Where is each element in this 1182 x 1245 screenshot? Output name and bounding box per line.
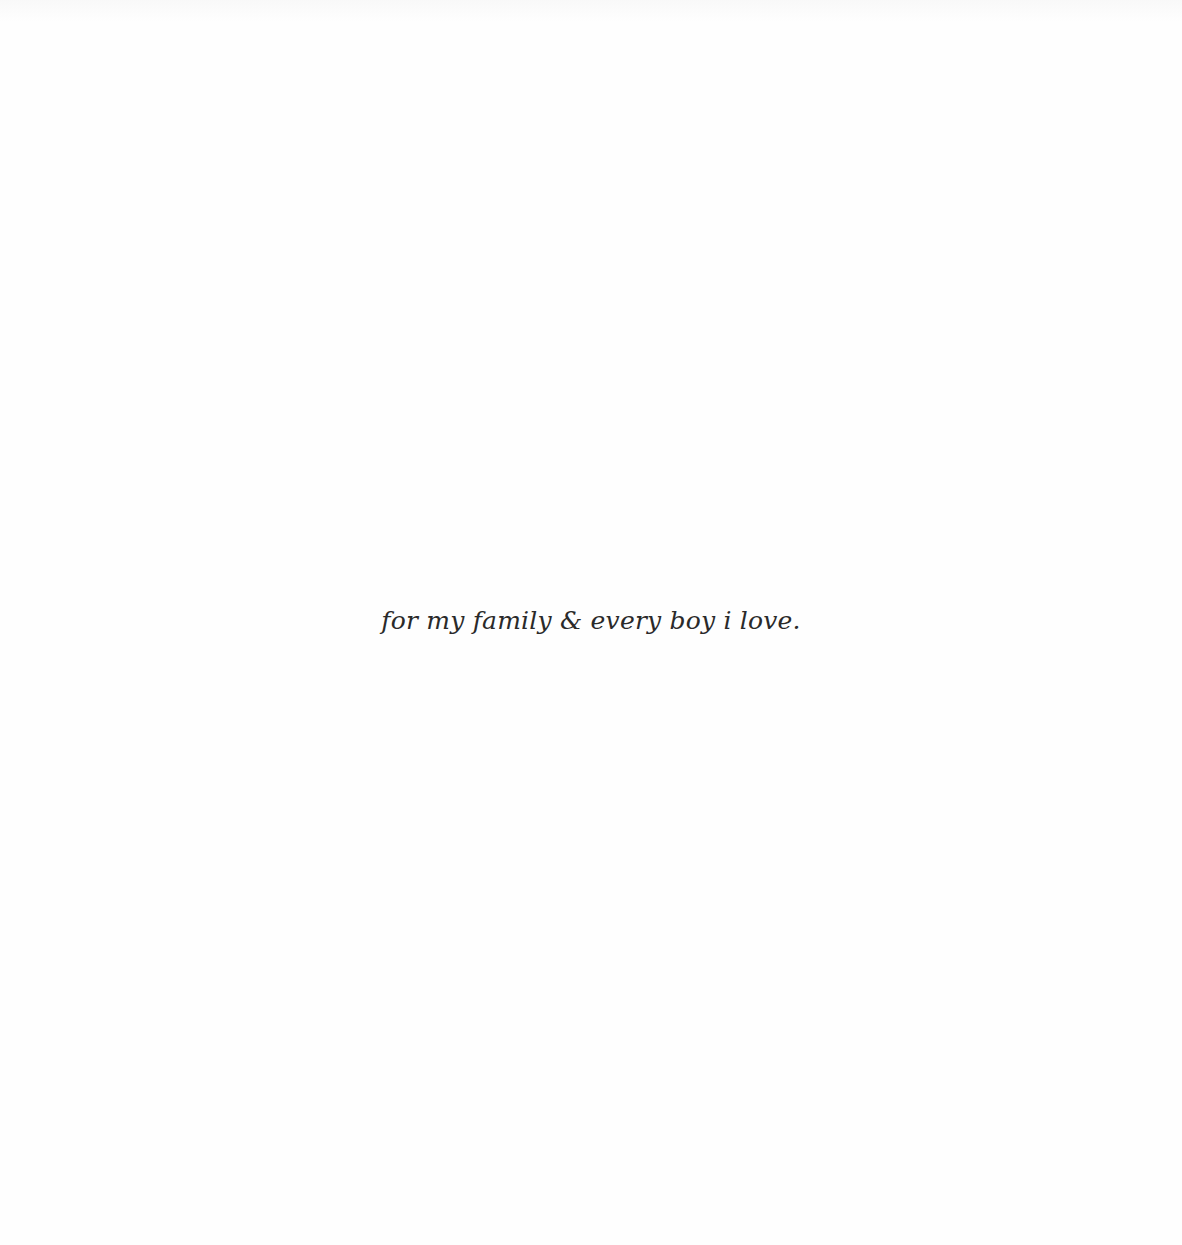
book-page: for my family & every boy i love.	[0, 0, 1182, 1245]
dedication-text: for my family & every boy i love.	[0, 603, 1182, 639]
scan-bleed-through	[0, 0, 1182, 22]
